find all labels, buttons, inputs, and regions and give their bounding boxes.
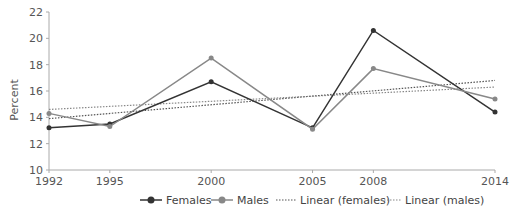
legend-item-females: Females: [140, 194, 212, 207]
legend-item-linear-males: Linear (males): [381, 194, 484, 207]
trend-line: [49, 87, 495, 109]
line-chart: 10121416182022199219952000200520082014 P…: [0, 0, 515, 214]
data-point: [371, 66, 376, 71]
x-tick-label: 2000: [197, 175, 225, 188]
trend-line: [49, 80, 495, 118]
data-point: [493, 96, 498, 101]
axes: 10121416182022199219952000200520082014: [29, 6, 509, 188]
legend-item-males: Males: [211, 194, 269, 207]
y-tick-label: 14: [29, 111, 43, 124]
legend: Females Males Linear (females) Linear (m…: [140, 194, 484, 207]
x-tick-label: 2008: [359, 175, 387, 188]
data-point: [371, 28, 376, 33]
series-line: [49, 58, 495, 129]
x-tick-label: 2005: [299, 175, 327, 188]
y-tick-label: 16: [29, 85, 43, 98]
data-series: [47, 28, 498, 132]
y-tick-label: 18: [29, 59, 43, 72]
y-tick-label: 20: [29, 32, 43, 45]
data-point: [107, 124, 112, 129]
y-tick-label: 22: [29, 6, 43, 19]
y-axis-label: Percent: [8, 79, 21, 121]
y-tick-label: 12: [29, 138, 43, 151]
svg-text:Linear (females): Linear (females): [300, 194, 390, 207]
svg-text:Females: Females: [166, 194, 212, 207]
svg-text:Linear (males): Linear (males): [405, 194, 484, 207]
x-tick-label: 1995: [96, 175, 124, 188]
x-tick-label: 2014: [481, 175, 509, 188]
data-point: [209, 56, 214, 61]
data-point: [493, 110, 498, 115]
legend-item-linear-females: Linear (females): [276, 194, 390, 207]
data-point: [209, 79, 214, 84]
data-point: [47, 125, 52, 130]
x-tick-label: 1992: [35, 175, 63, 188]
data-point: [310, 127, 315, 132]
data-point: [47, 111, 52, 116]
trend-lines: [49, 80, 495, 118]
svg-text:Males: Males: [237, 194, 269, 207]
